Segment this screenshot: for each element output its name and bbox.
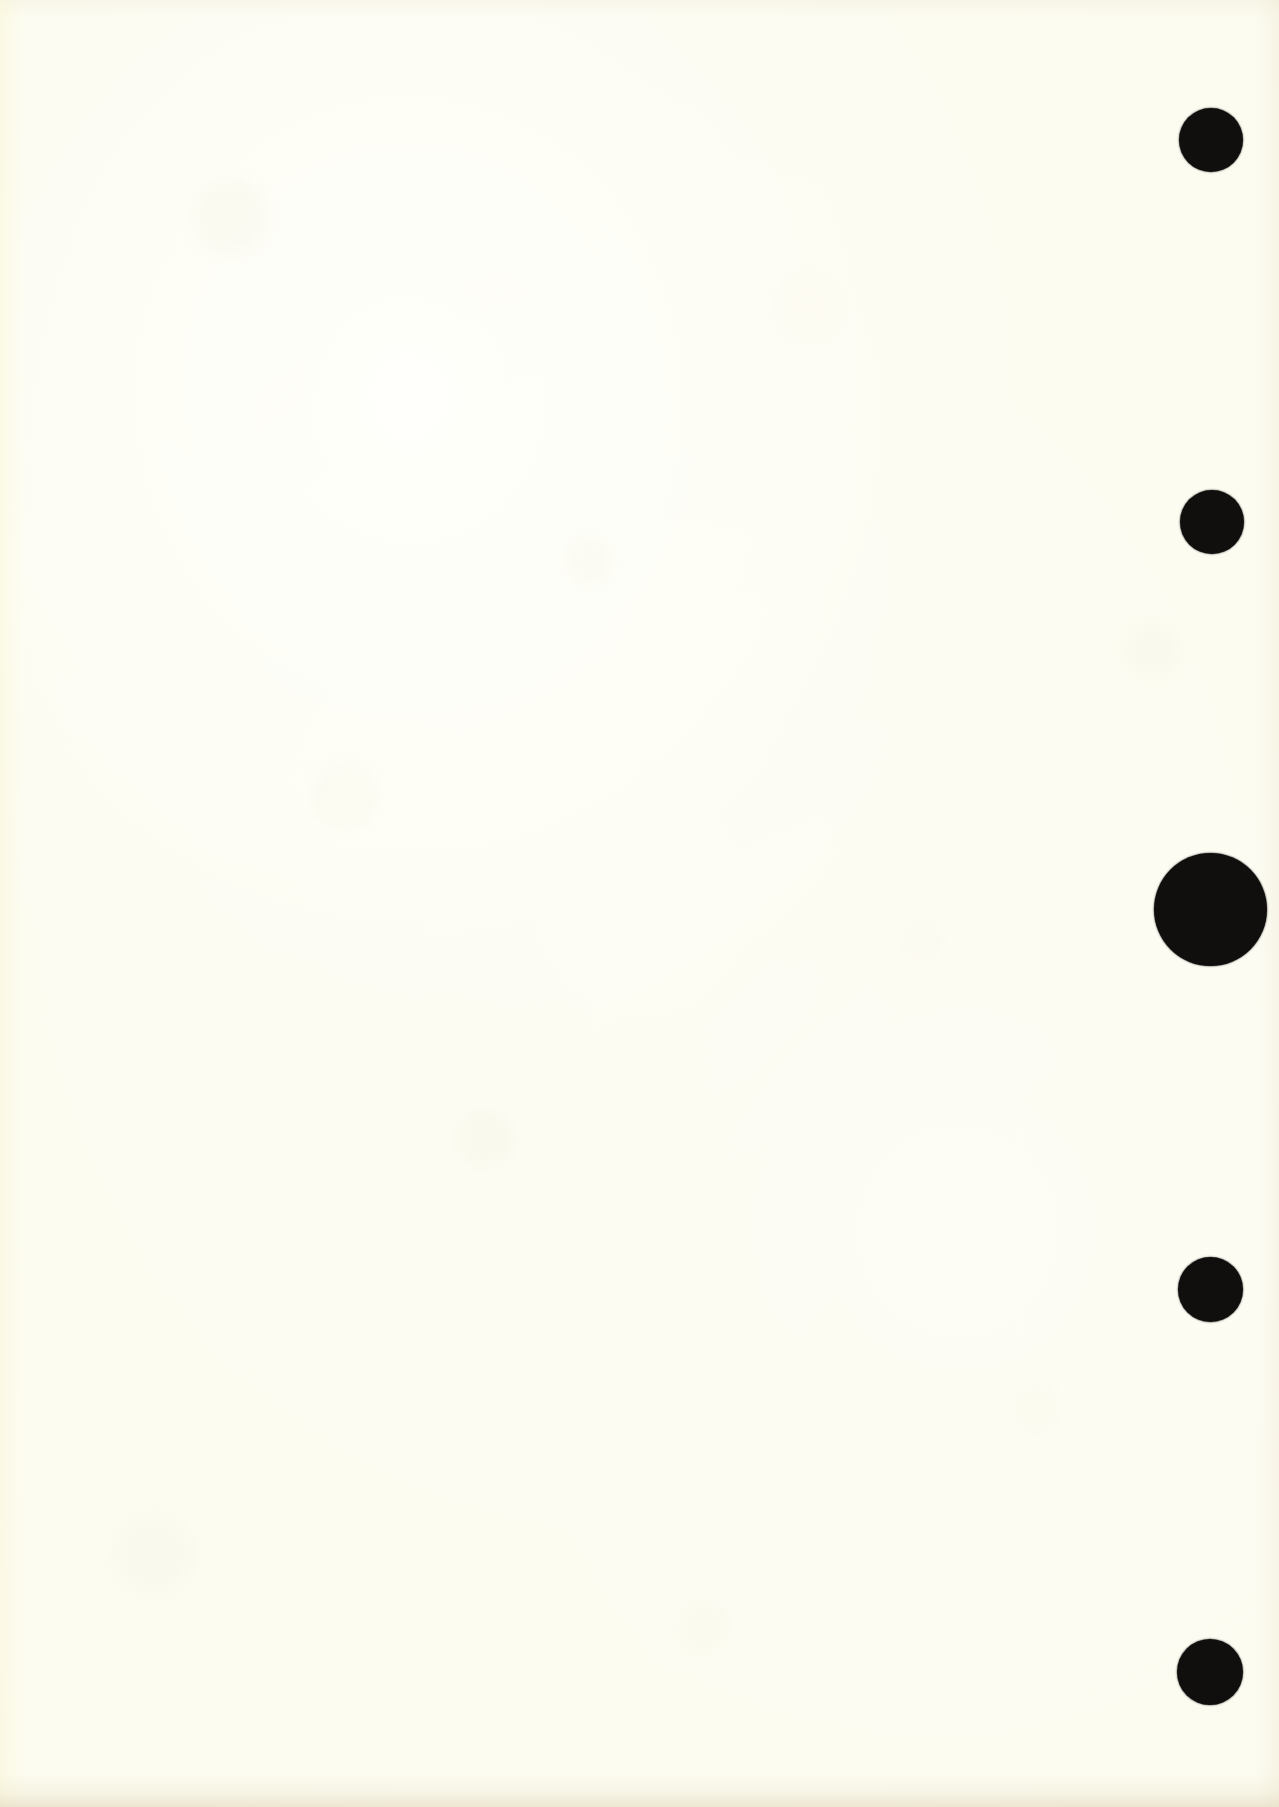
marginal-dot <box>1178 1257 1243 1322</box>
marginal-dot <box>1180 490 1244 554</box>
marginal-dot-column <box>0 0 1279 1807</box>
marginal-dot <box>1177 1639 1243 1705</box>
marginal-dot <box>1179 108 1243 172</box>
marginal-dot <box>1154 853 1267 966</box>
scanned-page <box>0 0 1279 1807</box>
